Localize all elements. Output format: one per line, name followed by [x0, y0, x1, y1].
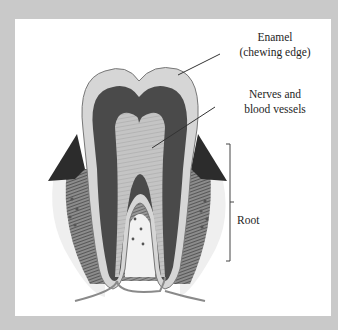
label-nerves-line2: blood vessels: [220, 102, 330, 117]
label-enamel-line2: (chewing edge): [220, 45, 330, 60]
tooth-cross-section-illustration: [15, 19, 331, 316]
label-nerves-line1: Nerves and: [220, 87, 330, 102]
root-bracket: [226, 144, 234, 261]
label-enamel-line1: Enamel: [220, 30, 330, 45]
label-root: Root: [237, 213, 259, 228]
enamel-leader-line: [178, 54, 220, 75]
label-enamel: Enamel (chewing edge): [220, 30, 330, 60]
diagram-panel: Enamel (chewing edge) Nerves and blood v…: [15, 19, 331, 316]
label-nerves-blood-vessels: Nerves and blood vessels: [220, 87, 330, 117]
